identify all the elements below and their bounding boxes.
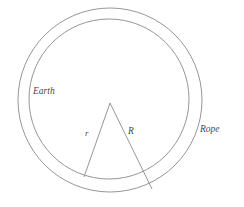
concentric-circles-diagram xyxy=(0,0,244,207)
radius-r-line xyxy=(84,103,110,177)
radius-small-label: r xyxy=(85,129,89,138)
earth-circle xyxy=(29,19,189,179)
radius-large-label: R xyxy=(128,127,134,137)
earth-label: Earth xyxy=(33,87,55,97)
rope-circle xyxy=(18,8,202,192)
figure-container: Earth Rope r R xyxy=(0,0,244,207)
rope-label: Rope xyxy=(200,125,220,135)
